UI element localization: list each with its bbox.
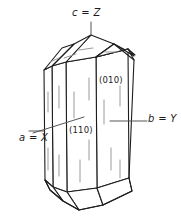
axis-label-c-z: c = Z (72, 8, 101, 18)
face-label-110: (110) (69, 126, 93, 135)
crystal-outline (44, 35, 135, 210)
axis-label-b-y: b = Y (148, 114, 177, 124)
crystal-drawing (0, 0, 181, 218)
axis-label-a-x: a = X (19, 133, 48, 143)
prism-face-010 (96, 49, 129, 188)
crystal-figure: c = Z a = X b = Y (010) (110) (0, 0, 181, 218)
face-label-010: (010) (99, 76, 123, 85)
